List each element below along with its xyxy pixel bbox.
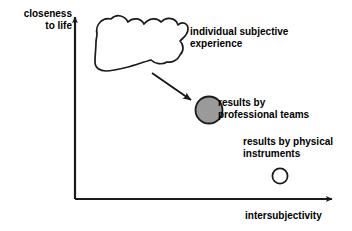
blob-shape-individual-subjective-experience	[95, 16, 188, 71]
diagram-canvas: closenessto life intersubjectivity indiv…	[0, 0, 352, 231]
y-axis-label: closenessto life	[0, 8, 72, 32]
label-individual-subjective-experience-line1: individual subjective	[190, 26, 288, 37]
label-results-by-physical-instruments-line1: results by physical	[243, 136, 333, 147]
blob-to-teams-arrow	[152, 73, 191, 100]
label-individual-subjective-experience-line2: experience	[190, 38, 242, 49]
label-individual-subjective-experience: individual subjectiveexperience	[190, 26, 288, 50]
label-results-by-professional-teams-line2: professional teams	[218, 109, 309, 120]
label-results-by-physical-instruments: results by physicalinstruments	[243, 136, 333, 160]
marker-results-by-physical-instruments	[272, 168, 287, 183]
x-axis-label: intersubjectivity	[245, 210, 322, 222]
y-axis-label-line1: closeness	[24, 8, 72, 19]
label-results-by-professional-teams: results byprofessional teams	[218, 97, 309, 121]
label-results-by-professional-teams-line1: results by	[218, 97, 265, 108]
y-axis-label-line2: to life	[45, 20, 72, 31]
label-results-by-physical-instruments-line2: instruments	[243, 148, 300, 159]
